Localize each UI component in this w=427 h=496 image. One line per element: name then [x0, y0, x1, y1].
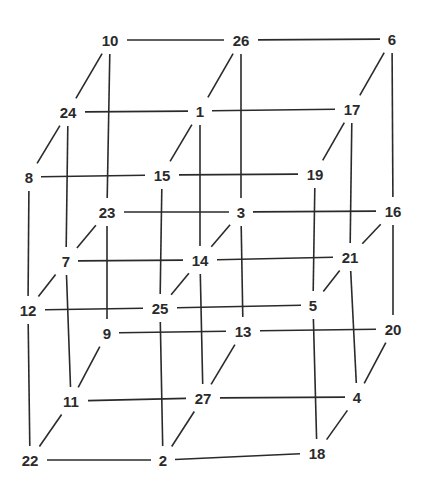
background: [0, 0, 427, 496]
edge-24-1: [85, 111, 188, 112]
node-label-1: 1: [196, 103, 204, 120]
edge-8-12: [28, 191, 29, 296]
node-label-6: 6: [388, 31, 396, 48]
node-label-5: 5: [309, 297, 317, 314]
edge-7-14: [78, 260, 183, 261]
edge-27-4: [220, 397, 345, 398]
node-label-23: 23: [99, 204, 116, 221]
node-label-17: 17: [344, 101, 361, 118]
cube-lattice-diagram: 1026624117815192331671421122559132011274…: [0, 0, 427, 496]
node-label-14: 14: [192, 252, 209, 269]
node-label-19: 19: [307, 166, 324, 183]
node-label-16: 16: [385, 203, 402, 220]
node-label-27: 27: [195, 390, 212, 407]
node-label-18: 18: [309, 445, 326, 462]
node-label-21: 21: [342, 249, 359, 266]
edge-15-19: [179, 174, 298, 175]
node-label-22: 22: [22, 452, 39, 469]
node-label-15: 15: [154, 167, 171, 184]
node-label-26: 26: [233, 32, 250, 49]
node-label-9: 9: [103, 325, 111, 342]
node-label-12: 12: [20, 302, 37, 319]
node-label-2: 2: [159, 452, 167, 469]
edge-26-6: [258, 39, 380, 40]
node-label-25: 25: [152, 300, 169, 317]
node-label-8: 8: [25, 169, 33, 186]
node-label-11: 11: [63, 393, 79, 410]
node-label-3: 3: [237, 204, 245, 221]
node-label-24: 24: [60, 104, 77, 121]
node-label-4: 4: [353, 389, 362, 406]
edge-6-16: [392, 53, 393, 197]
node-label-7: 7: [62, 253, 70, 270]
node-label-20: 20: [385, 321, 402, 338]
node-label-10: 10: [102, 32, 119, 49]
node-label-13: 13: [235, 323, 252, 340]
